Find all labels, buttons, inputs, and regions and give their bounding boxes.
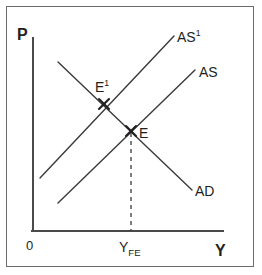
plot-area bbox=[0, 0, 262, 275]
curve-label-as: AS bbox=[199, 65, 218, 79]
point-label-e1-superscript: 1 bbox=[104, 78, 109, 88]
curve-label-as1-text: AS bbox=[177, 29, 196, 45]
point-label-e1: E1 bbox=[95, 80, 109, 94]
yfe-label-subscript: FE bbox=[128, 247, 140, 258]
point-marker-e1 bbox=[99, 99, 109, 109]
curve-label-ad: AD bbox=[195, 184, 214, 198]
x-axis-label: Y bbox=[215, 243, 226, 259]
curve-label-as1: AS1 bbox=[177, 30, 201, 44]
as-ad-diagram: P Y 0 AS1 AS AD E1 E YFE bbox=[0, 0, 262, 275]
y-axis-label: P bbox=[17, 27, 28, 43]
yfe-label: YFE bbox=[119, 240, 141, 254]
point-label-e1-text: E bbox=[95, 79, 104, 95]
origin-label: 0 bbox=[26, 239, 33, 252]
yfe-label-text: Y bbox=[119, 239, 128, 255]
curve-label-as1-superscript: 1 bbox=[196, 28, 201, 38]
point-label-e: E bbox=[139, 126, 148, 140]
